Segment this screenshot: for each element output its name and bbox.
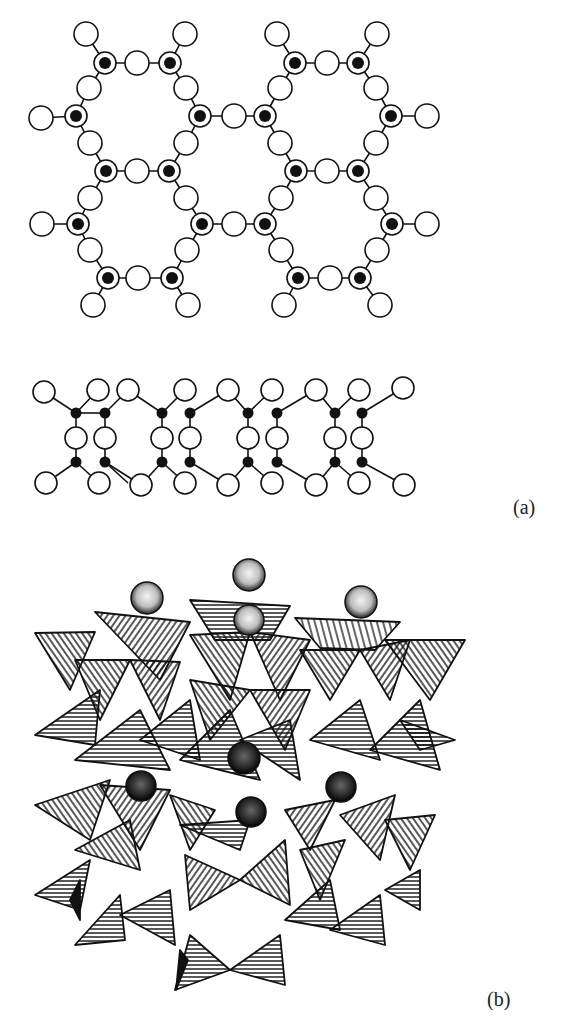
oxygen-atoms [29, 22, 439, 317]
panel-label-a: (a) [513, 496, 535, 519]
lower-layer [35, 780, 435, 990]
panel-label-b: (b) [487, 988, 510, 1011]
hexagonal-ring-network [29, 22, 439, 317]
silicon-atoms-ringed [65, 52, 403, 289]
tetrahedral-framework [35, 559, 465, 990]
crystal-structure-figure [0, 0, 571, 1029]
chain-oxygen-atoms [33, 377, 415, 496]
side-view-chain [33, 377, 415, 496]
